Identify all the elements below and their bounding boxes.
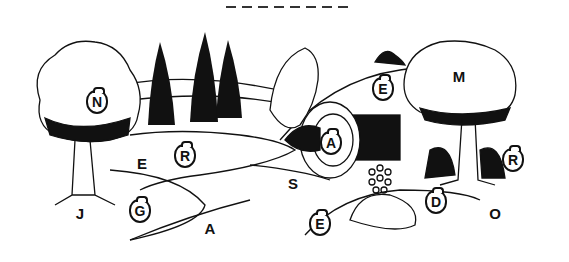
hidden-letter: E <box>137 156 147 171</box>
money-bag-letter: G <box>129 199 151 223</box>
money-bag-letter: E <box>372 77 394 101</box>
answer-blank <box>242 6 252 8</box>
answer-blank <box>258 6 268 8</box>
answer-blank <box>274 6 284 8</box>
money-bag-letter: D <box>425 190 447 214</box>
tomb-scene-art <box>0 0 569 262</box>
answer-blank <box>306 6 316 8</box>
answer-blank <box>226 6 236 8</box>
money-bag-letter: R <box>502 148 524 172</box>
money-bag-letter: A <box>320 131 342 155</box>
money-bag-letter: R <box>174 144 196 168</box>
money-bag-letter: E <box>309 212 331 236</box>
money-bag-letter: N <box>86 90 108 114</box>
hidden-letter: M <box>453 69 466 84</box>
hidden-letter: S <box>288 176 298 191</box>
hidden-letter: O <box>489 206 501 221</box>
answer-blank <box>290 6 300 8</box>
answer-blanks <box>226 3 348 8</box>
answer-blank <box>338 6 348 8</box>
hidden-letter: A <box>205 221 216 236</box>
answer-blank <box>322 6 332 8</box>
puzzle-illustration: EJASMONRGAERDE <box>0 0 569 262</box>
hidden-letter: J <box>76 206 84 221</box>
